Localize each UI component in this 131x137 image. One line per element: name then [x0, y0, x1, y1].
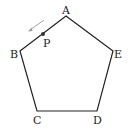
vertex-label-b: B [10, 48, 18, 61]
vertex-label-c: C [33, 114, 41, 127]
pentagon-abcde [20, 16, 113, 111]
vertex-label-e: E [114, 48, 122, 61]
motion-arrow-head-icon [28, 28, 33, 32]
point-label-p: P [43, 37, 51, 50]
vertex-label-d: D [93, 114, 102, 127]
pentagon-diagram: A E D C B P [0, 0, 131, 137]
vertex-label-a: A [61, 4, 71, 17]
motion-arrow-shaft [30, 20, 44, 30]
point-p [41, 32, 45, 36]
